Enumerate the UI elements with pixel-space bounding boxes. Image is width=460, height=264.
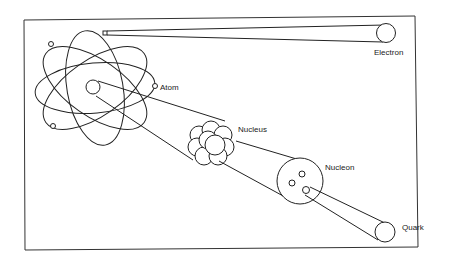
electron-label: Electron	[374, 48, 403, 57]
nucleus-label: Nucleus	[238, 125, 267, 134]
nucleon-circle	[277, 158, 323, 204]
electron-dot	[49, 42, 54, 47]
electron-circle	[377, 24, 396, 43]
atom-nucleus-small	[86, 80, 100, 94]
quark-dot	[299, 171, 305, 177]
nucleon-label: Nucleon	[325, 163, 354, 172]
electron-dot	[153, 84, 158, 89]
quark-dot	[289, 180, 295, 186]
electron-dot	[51, 124, 56, 129]
electron-dot-highlighted	[103, 31, 107, 35]
quark-label: Quark	[402, 223, 425, 232]
nucleus-cluster	[188, 121, 234, 165]
quark-source-dot	[303, 187, 310, 194]
atom-label: Atom	[160, 83, 179, 92]
atomic-structure-diagram: Electron Atom Nucleus Nucleon Quark	[0, 0, 460, 264]
quark-circle	[375, 222, 395, 242]
